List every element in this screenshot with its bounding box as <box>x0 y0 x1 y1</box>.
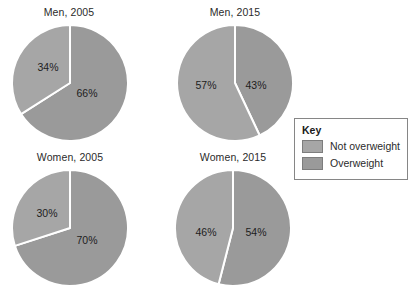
pie-chart-figure: Men, 2005 34% 66% Men, 2015 57% 43% Wome… <box>0 0 411 292</box>
slice-label-not-overweight-women-2005: 30% <box>36 207 57 219</box>
pie-slices-men-2005 <box>12 25 128 141</box>
slice-label-overweight-women-2005: 70% <box>76 234 97 246</box>
chart-title-men-2015: Men, 2015 <box>165 6 305 18</box>
slice-label-not-overweight-men-2015: 57% <box>195 79 216 91</box>
chart-title-women-2015: Women, 2015 <box>163 151 303 163</box>
slice-label-overweight-men-2005: 66% <box>76 87 97 99</box>
pie-svg-men-2005: 34% 66% <box>11 24 129 142</box>
slice-label-overweight-women-2015: 54% <box>245 226 266 238</box>
pie-svg-men-2015: 57% 43% <box>176 24 294 142</box>
pie-wrap-men-2015: 57% 43% <box>176 24 294 142</box>
slice-label-not-overweight-women-2015: 46% <box>195 226 216 238</box>
pie-slices-men-2015 <box>177 25 293 141</box>
pie-slices-women-2005 <box>12 170 128 286</box>
chart-panel-men-2015: Men, 2015 57% 43% <box>165 6 305 146</box>
legend-row-overweight: Overweight <box>302 155 401 172</box>
pie-svg-women-2015: 46% 54% <box>174 169 292 287</box>
chart-title-women-2005: Women, 2005 <box>0 151 140 163</box>
legend-key-box: Key Not overweight Overweight <box>294 118 408 180</box>
slice-label-not-overweight-men-2005: 34% <box>37 61 58 73</box>
chart-panel-women-2015: Women, 2015 46% 54% <box>163 151 303 291</box>
legend-swatch-overweight <box>302 157 323 170</box>
chart-panel-men-2005: Men, 2005 34% 66% <box>0 6 140 146</box>
pie-svg-women-2005: 30% 70% <box>11 169 129 287</box>
legend-label-not-overweight: Not overweight <box>330 140 400 153</box>
legend-swatch-not-overweight <box>302 140 323 153</box>
pie-slices-women-2015 <box>175 170 291 286</box>
legend-label-overweight: Overweight <box>330 157 383 170</box>
pie-wrap-men-2005: 34% 66% <box>11 24 129 142</box>
pie-wrap-women-2015: 46% 54% <box>174 169 292 287</box>
chart-title-men-2005: Men, 2005 <box>0 6 139 18</box>
legend-row-not-overweight: Not overweight <box>302 138 401 155</box>
chart-panel-women-2005: Women, 2005 30% 70% <box>0 151 140 291</box>
pie-wrap-women-2005: 30% 70% <box>11 169 129 287</box>
slice-label-overweight-men-2015: 43% <box>245 79 266 91</box>
legend-title: Key <box>302 124 401 136</box>
